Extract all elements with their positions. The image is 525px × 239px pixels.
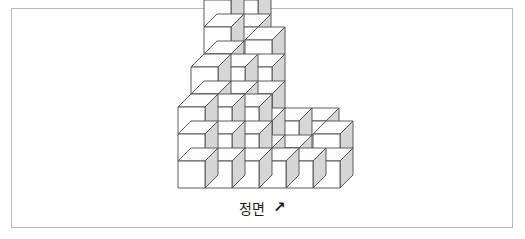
arrow-up-right-icon: ↗ [273, 198, 286, 216]
cubes-group [178, 0, 353, 188]
figure-root: 정면↗ [0, 0, 525, 239]
front-direction-label: 정면↗ [0, 198, 525, 218]
cube-front-face [178, 161, 205, 188]
front-label-text: 정면 [239, 201, 266, 217]
